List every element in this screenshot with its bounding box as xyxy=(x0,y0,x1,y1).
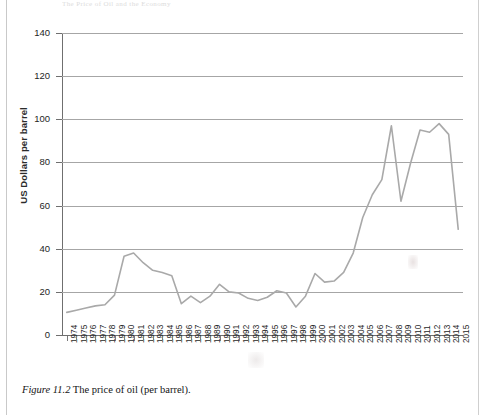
x-tick-2011 xyxy=(420,336,421,341)
x-tick-1989 xyxy=(210,336,211,341)
x-tick-1986 xyxy=(181,336,182,341)
y-tick-label-60: 60 xyxy=(6,200,50,211)
x-tick-1998 xyxy=(296,336,297,341)
y-tick-label-140: 140 xyxy=(6,27,50,38)
x-tick-2008 xyxy=(391,336,392,341)
figure-caption-text: The price of oil (per barrel). xyxy=(73,384,191,395)
x-tick-2001 xyxy=(325,336,326,341)
x-tick-1987 xyxy=(191,336,192,341)
x-tick-2013 xyxy=(439,336,440,341)
oil-price-line xyxy=(62,33,463,335)
x-tick-1976 xyxy=(86,336,87,341)
x-tick-1980 xyxy=(124,336,125,341)
y-tick-label-120: 120 xyxy=(6,70,50,81)
x-tick-1997 xyxy=(286,336,287,341)
x-tick-1990 xyxy=(220,336,221,341)
x-tick-2003 xyxy=(344,336,345,341)
y-tick-label-0: 0 xyxy=(6,329,50,340)
x-tick-1991 xyxy=(229,336,230,341)
x-tick-2012 xyxy=(430,336,431,341)
x-tick-1982 xyxy=(143,336,144,341)
x-tick-2010 xyxy=(410,336,411,341)
x-tick-2002 xyxy=(334,336,335,341)
x-tick-1993 xyxy=(248,336,249,341)
x-tick-1994 xyxy=(258,336,259,341)
x-tick-1985 xyxy=(172,336,173,341)
x-tick-2004 xyxy=(353,336,354,341)
x-tick-1981 xyxy=(134,336,135,341)
x-tick-1996 xyxy=(277,336,278,341)
x-tick-2014 xyxy=(449,336,450,341)
x-tick-1992 xyxy=(239,336,240,341)
x-tick-2006 xyxy=(372,336,373,341)
x-tick-1978 xyxy=(105,336,106,341)
x-tick-2000 xyxy=(315,336,316,341)
x-tick-1988 xyxy=(200,336,201,341)
x-tick-1999 xyxy=(305,336,306,341)
figure-number: Figure 11.2 xyxy=(22,384,70,395)
y-tick-label-80: 80 xyxy=(6,156,50,167)
x-tick-1974 xyxy=(67,336,68,341)
x-tick-2007 xyxy=(382,336,383,341)
x-tick-2005 xyxy=(363,336,364,341)
x-tick-1979 xyxy=(115,336,116,341)
y-tick-0 xyxy=(56,335,62,336)
scan-artifact-2 xyxy=(248,352,264,368)
x-tick-2015 xyxy=(458,336,459,341)
y-tick-label-40: 40 xyxy=(6,243,50,254)
x-tick-1975 xyxy=(76,336,77,341)
y-tick-label-100: 100 xyxy=(6,113,50,124)
x-tick-2009 xyxy=(401,336,402,341)
x-tick-1977 xyxy=(95,336,96,341)
x-tick-1983 xyxy=(153,336,154,341)
oil-price-chart: US Dollars per barrel 020406080100120140… xyxy=(0,0,489,372)
y-tick-label-20: 20 xyxy=(6,286,50,297)
oil-price-series xyxy=(62,33,463,335)
figure-caption: Figure 11.2 The price of oil (per barrel… xyxy=(22,384,462,395)
scan-artifact xyxy=(408,255,418,269)
x-tick-1984 xyxy=(162,336,163,341)
x-tick-1995 xyxy=(267,336,268,341)
